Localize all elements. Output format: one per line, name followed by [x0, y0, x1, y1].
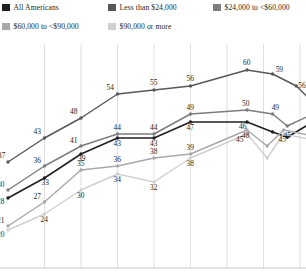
point-label-less-than-24000: 56: [298, 81, 306, 90]
point-label-all-americans: 47: [187, 123, 195, 132]
point-label-less-than-24000: 48: [70, 107, 78, 116]
data-point-income-60000-90000: [265, 144, 268, 147]
point-label-all-americans: 33: [42, 178, 50, 187]
point-label-less-than-24000: 59: [276, 65, 284, 74]
point-label-income-24000-60000: 44: [150, 123, 158, 132]
point-label-all-americans: 43: [114, 139, 122, 148]
legend-item-less-than-24000: Less than $24,000: [108, 3, 177, 12]
point-label-income-90000-plus: 30: [77, 191, 85, 200]
legend-swatch-all-americans: [2, 4, 10, 12]
legend-label-60000-to-90000: $60,000 to <$90,000: [14, 22, 79, 31]
data-point-income-24000-60000: [152, 132, 155, 135]
point-label-income-90000-plus: 45: [236, 135, 244, 144]
data-point-all-americans: [6, 196, 9, 199]
chart-svg: 3743485455566059565230364144444950494928…: [0, 44, 306, 277]
legend-swatch-less-than-24000: [108, 4, 116, 12]
data-point-all-americans: [271, 130, 274, 133]
point-label-income-90000-plus: 34: [114, 175, 122, 184]
point-label-income-90000-plus: 45: [279, 135, 287, 144]
legend-label-all-americans: All Americans: [14, 3, 59, 12]
point-label-income-90000-plus: 32: [150, 183, 158, 192]
point-label-income-24000-60000: 30: [0, 180, 5, 189]
data-point-income-24000-60000: [43, 164, 46, 167]
point-label-less-than-24000: 54: [107, 83, 115, 92]
data-point-income-90000-plus: [265, 156, 268, 159]
data-point-income-24000-60000: [189, 112, 192, 115]
legend-label-less-than-24000: Less than $24,000: [120, 3, 177, 12]
point-label-income-24000-60000: 44: [114, 123, 122, 132]
legend-swatch-90000-or-more: [108, 23, 116, 31]
data-point-income-24000-60000: [271, 112, 274, 115]
point-label-income-24000-60000: 50: [242, 99, 250, 108]
data-point-income-60000-90000: [116, 164, 119, 167]
data-point-income-90000-plus: [6, 228, 9, 231]
point-label-income-24000-60000: 49: [272, 103, 280, 112]
point-label-income-60000-90000: 27: [34, 192, 42, 201]
legend-swatch-24000-to-60000: [213, 4, 221, 12]
data-point-less-than-24000: [116, 92, 119, 95]
point-label-all-americans: 46: [239, 122, 247, 131]
point-label-income-60000-90000: 39: [187, 143, 195, 152]
data-point-income-60000-90000: [152, 156, 155, 159]
data-point-less-than-24000: [79, 116, 82, 119]
data-point-income-24000-60000: [286, 124, 289, 127]
data-point-income-24000-60000: [6, 188, 9, 191]
legend-item-24000-to-60000: $24,000 to <$60,000: [213, 3, 290, 12]
data-point-less-than-24000: [189, 84, 192, 87]
point-label-income-24000-60000: 36: [34, 156, 42, 165]
legend-swatch-60000-to-90000: [2, 23, 10, 31]
point-label-income-90000-plus: 24: [41, 215, 49, 224]
data-point-less-than-24000: [43, 136, 46, 139]
legend-label-24000-to-60000: $24,000 to <$60,000: [225, 3, 290, 12]
point-label-income-60000-90000: 36: [114, 155, 122, 164]
point-label-income-24000-60000: 49: [187, 103, 195, 112]
point-label-income-60000-90000: 21: [0, 216, 5, 225]
data-point-less-than-24000: [6, 160, 9, 163]
chart-plot-area: 3743485455566059565230364144444950494928…: [0, 44, 306, 277]
point-label-all-americans: 28: [0, 197, 5, 206]
data-point-income-24000-60000: [245, 108, 248, 111]
data-point-income-24000-60000: [79, 144, 82, 147]
legend-item-90000-or-more: $90,000 or more: [108, 22, 171, 31]
data-point-income-60000-90000: [43, 200, 46, 203]
data-point-less-than-24000: [245, 68, 248, 71]
data-point-income-60000-90000: [6, 224, 9, 227]
point-label-less-than-24000: 56: [187, 74, 195, 83]
point-label-less-than-24000: 37: [0, 151, 6, 160]
point-label-income-90000-plus: 38: [187, 159, 195, 168]
data-point-income-60000-90000: [189, 152, 192, 155]
chart-figure: All Americans Less than $24,000 $24,000 …: [0, 0, 306, 277]
point-label-less-than-24000: 60: [243, 58, 251, 67]
chart-legend: All Americans Less than $24,000 $24,000 …: [0, 0, 306, 46]
legend-item-all-americans: All Americans: [2, 3, 59, 12]
legend-label-90000-or-more: $90,000 or more: [120, 22, 172, 31]
legend-item-60000-to-90000: $60,000 to <$90,000: [2, 22, 79, 31]
data-point-less-than-24000: [152, 88, 155, 91]
data-point-income-60000-90000: [79, 168, 82, 171]
point-label-income-24000-60000: 41: [70, 136, 78, 145]
point-label-less-than-24000: 43: [34, 127, 42, 136]
data-point-income-24000-60000: [116, 132, 119, 135]
point-label-income-90000-plus: 20: [0, 230, 5, 239]
point-label-less-than-24000: 55: [150, 78, 158, 87]
data-point-less-than-24000: [271, 72, 274, 75]
point-label-income-60000-90000: 38: [150, 147, 158, 156]
point-label-income-60000-90000: 35: [77, 159, 85, 168]
